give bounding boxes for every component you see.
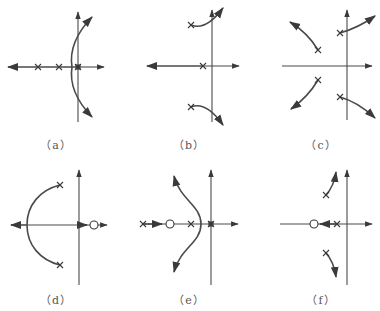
pole-marker	[315, 47, 321, 53]
root-locus-figure	[0, 0, 380, 311]
pole-marker	[208, 221, 214, 227]
locus-branch	[191, 106, 223, 125]
locus-branch	[174, 224, 201, 272]
locus-branch	[174, 176, 201, 224]
panel-d	[11, 170, 107, 285]
panel-b	[147, 8, 239, 125]
locus-branch	[326, 253, 336, 277]
pole-marker	[323, 192, 329, 198]
pole-marker	[315, 77, 321, 83]
zero-marker	[166, 220, 174, 228]
locus-branch	[340, 97, 375, 118]
pole-marker	[323, 250, 329, 256]
panel-e	[140, 170, 238, 285]
locus-branch	[71, 67, 92, 117]
panel-label-c: （c）	[305, 136, 336, 152]
locus-branch	[326, 172, 336, 195]
panel-label-d: （d）	[40, 291, 72, 307]
locus-branch	[71, 17, 92, 67]
panel-c	[282, 10, 375, 120]
locus-branch	[291, 80, 318, 109]
locus-branch	[191, 8, 223, 26]
panel-label-f: （f）	[306, 291, 335, 307]
panel-label-e: （e）	[173, 291, 205, 307]
zero-marker	[90, 221, 98, 229]
locus-branch	[340, 16, 375, 33]
panel-label-b: （b）	[173, 136, 205, 152]
pole-marker	[75, 64, 81, 70]
zero-marker	[310, 220, 318, 228]
panel-label-a: （a）	[40, 136, 72, 152]
locus-branch	[290, 22, 318, 50]
panel-f	[280, 170, 372, 285]
panel-a	[8, 12, 104, 122]
